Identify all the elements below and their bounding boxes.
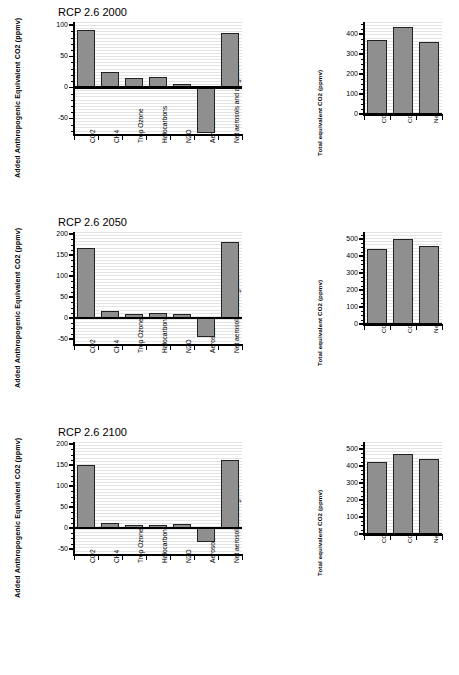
gridline: [74, 451, 242, 452]
y-minor-tick: [361, 84, 364, 85]
y-minor-tick: [71, 31, 74, 32]
y-minor-tick: [71, 250, 74, 251]
bar: [197, 318, 215, 337]
gridline: [74, 291, 242, 292]
y-minor-tick: [361, 39, 364, 40]
y-minor-tick: [361, 303, 364, 304]
plot-area: [74, 22, 242, 134]
gridline: [74, 248, 242, 249]
x-tick-label: N2O: [185, 549, 192, 563]
gridline: [74, 44, 242, 45]
gridline: [74, 232, 242, 233]
y-tick-label: 150: [38, 251, 68, 258]
gridline: [74, 541, 242, 542]
y-tick-label: 0: [328, 320, 358, 327]
y-tick-label: 100: [38, 482, 68, 489]
y-minor-tick: [71, 94, 74, 95]
y-minor-tick: [71, 281, 74, 282]
y-minor-tick: [361, 89, 364, 90]
gridline: [74, 100, 242, 101]
y-minor-tick: [71, 75, 74, 76]
gridline: [364, 232, 442, 233]
chart-row-2100: Added Anthropogenic Equivalent CO2 (ppmv…: [0, 426, 459, 641]
gridline: [74, 485, 242, 486]
gridline: [364, 451, 442, 452]
y-tick-label: 150: [38, 461, 68, 468]
gridline: [74, 325, 242, 326]
gridline: [74, 124, 242, 125]
y-minor-tick: [71, 502, 74, 503]
bar: [101, 72, 119, 88]
y-minor-tick: [361, 24, 364, 25]
x-tick-label: CO2: [89, 549, 96, 563]
gridline: [74, 523, 242, 524]
gridline: [74, 464, 242, 465]
bar: [221, 460, 239, 528]
gridline: [74, 328, 242, 329]
y-minor-tick: [71, 533, 74, 534]
gridline: [74, 103, 242, 104]
y-minor-tick: [71, 481, 74, 482]
gridline: [74, 28, 242, 29]
y-minor-tick: [361, 298, 364, 299]
y-tick-label: 0: [38, 524, 68, 531]
y-minor-tick: [71, 106, 74, 107]
y-tick: [69, 506, 74, 507]
y-minor-tick: [71, 50, 74, 51]
y-minor-tick: [71, 476, 74, 477]
bar: [393, 239, 413, 324]
gridline: [74, 244, 242, 245]
x-tick-label: Trop Ozone: [137, 318, 144, 353]
right-axis-title-2: Total equivalent CO2 (ppmv): [316, 490, 323, 576]
y-minor-tick: [361, 59, 364, 60]
y-minor-tick: [361, 286, 364, 287]
bar: [221, 33, 239, 88]
plot-area: [364, 232, 442, 324]
y-minor-tick: [71, 497, 74, 498]
y-tick-label: 500: [328, 445, 358, 452]
y-tick-label: 0: [328, 110, 358, 117]
bar: [197, 528, 215, 542]
y-minor-tick: [361, 491, 364, 492]
left-axis-title-2: Added Anthropogenic Equivalent CO2 (ppmv…: [14, 438, 22, 598]
gridline: [74, 254, 242, 255]
y-minor-tick: [361, 487, 364, 488]
y-minor-tick: [361, 104, 364, 105]
gridline: [74, 34, 242, 35]
x-tick-label: CH4: [113, 340, 120, 353]
gridline: [74, 470, 242, 471]
y-minor-tick: [71, 287, 74, 288]
gridline: [74, 551, 242, 552]
y-minor-tick: [361, 264, 364, 265]
left-panel-2050: -50050100150200CO2CH4Trop OzoneHalocarbo…: [44, 220, 244, 425]
x-tick-label: Trop Ozone: [137, 108, 144, 143]
gridline: [74, 282, 242, 283]
y-tick-label: -50: [38, 114, 68, 121]
baseline: [364, 323, 442, 324]
gridline: [74, 507, 242, 508]
y-minor-tick: [361, 470, 364, 471]
y-minor-tick: [71, 271, 74, 272]
bar: [419, 246, 439, 324]
y-tick-label: 200: [38, 230, 68, 237]
y-tick: [359, 255, 364, 256]
y-minor-tick: [361, 69, 364, 70]
y-tick-label: 200: [328, 496, 358, 503]
right-panel-2100: 0100200300400500CO2CO2+other gasesNet ae…: [330, 430, 450, 635]
x-tick-label: CH4: [113, 550, 120, 563]
y-minor-tick: [361, 508, 364, 509]
y-minor-tick: [361, 49, 364, 50]
y-minor-tick: [361, 513, 364, 514]
gridline: [74, 96, 242, 97]
y-tick-label: 50: [38, 503, 68, 510]
y-tick: [69, 233, 74, 234]
baseline: [364, 533, 442, 534]
y-minor-tick: [71, 38, 74, 39]
y-minor-tick: [361, 479, 364, 480]
y-minor-tick: [361, 530, 364, 531]
x-tick-label: Halocarbons: [161, 106, 168, 143]
gridline: [74, 461, 242, 462]
gridline: [74, 279, 242, 280]
gridline: [74, 59, 242, 60]
y-tick-label: 100: [328, 513, 358, 520]
